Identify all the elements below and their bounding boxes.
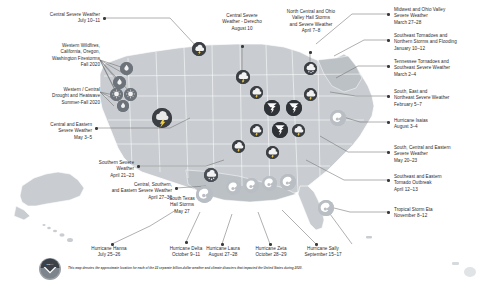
- noaa-logo-text: NOAA: [46, 263, 53, 266]
- noaa-logo: NOAA: [38, 257, 62, 281]
- anchor-dot-4: [95, 127, 98, 130]
- anchor-dot-1: [103, 17, 106, 20]
- anchor-dot-17: [387, 65, 390, 68]
- marker-tornado-2[interactable]: [286, 100, 302, 116]
- event-label-derecho: Central Severe Weather - Derecho August …: [206, 13, 278, 32]
- event-label-hurricane-isaias: Hurricane Isaias August 3–4: [394, 118, 478, 131]
- event-label-hurricane-sally: Hurricane Sally September 15–17: [284, 246, 362, 259]
- event-label-north-central-hail: North Central and Ohio Valley Hail Storm…: [272, 9, 350, 34]
- marker-storm-east-1[interactable]: [250, 86, 263, 99]
- anchor-dot-14: [309, 51, 312, 54]
- marker-hurricane-sally[interactable]: [280, 174, 296, 190]
- disaster-map-page: Central Severe Weather July 10–11 Wester…: [0, 0, 482, 293]
- anchor-dot-19: [387, 121, 390, 124]
- event-label-central-severe-july: Central Severe Weather July 10–11: [8, 12, 100, 25]
- marker-storm-east-2[interactable]: [304, 88, 317, 101]
- marker-hurricane-isaias[interactable]: [330, 110, 346, 126]
- marker-hurricane-zeta[interactable]: [262, 176, 277, 191]
- anchor-dot-22: [387, 211, 390, 214]
- map-caption: This map denotes the approximate locatio…: [68, 266, 368, 270]
- marker-tropical-storm-eta[interactable]: [318, 200, 334, 216]
- puerto-rico-inset: [366, 236, 372, 238]
- marker-tornado-1[interactable]: [264, 100, 280, 116]
- marker-central-storm-large[interactable]: [152, 108, 172, 128]
- marker-hurricane-delta[interactable]: [226, 180, 241, 195]
- marker-storm-east-3[interactable]: [250, 124, 263, 137]
- event-label-southern-severe-april: Southern Severe Weather April 21–23: [52, 160, 134, 179]
- event-label-midwest-ohio: Midwest and Ohio Valley Severe Weather M…: [394, 7, 482, 26]
- anchor-dot-13: [241, 45, 244, 48]
- anchor-dot-18: [387, 95, 390, 98]
- event-label-southeast-tornadoes-jan: Southeast Tornadoes and Northern Storms …: [394, 33, 482, 52]
- event-label-western-wildfires: Western Wildfires, California, Oregon, W…: [6, 43, 100, 68]
- event-label-tennessee-tornadoes: Tennessee Tornadoes and Southeast Severe…: [394, 59, 482, 78]
- marker-storm-east-4[interactable]: [292, 124, 305, 137]
- event-label-south-east-northeast: South, East and Northeast Severe Weather…: [394, 89, 482, 108]
- puerto-rico-inset-2: [452, 262, 459, 265]
- event-label-south-central-eastern: South, Central and Eastern Severe Weathe…: [394, 145, 482, 164]
- marker-tornado-3[interactable]: [272, 122, 288, 138]
- marker-derecho[interactable]: [236, 70, 250, 84]
- anchor-dot-21: [387, 179, 390, 182]
- anchor-dot-6: [175, 187, 178, 190]
- event-label-central-eastern-may: Central and Eastern Severe Weather May 3…: [4, 122, 92, 141]
- marker-storm-east-5[interactable]: [232, 140, 245, 153]
- marker-central-severe-july[interactable]: [192, 42, 206, 56]
- anchor-dot-15: [387, 13, 390, 16]
- marker-hurricane-laura[interactable]: [244, 178, 259, 193]
- event-label-southeast-eastern-tornado: Southeast and Eastern Tornado Outbreak A…: [394, 174, 480, 193]
- marker-hail-south-texas[interactable]: [204, 168, 218, 182]
- anchor-dot-9: [185, 241, 188, 244]
- event-label-tropical-storm-eta: Tropical Storm Eta November 8–12: [394, 207, 478, 220]
- ocean-mark: [464, 267, 476, 277]
- anchor-dot-20: [387, 151, 390, 154]
- event-label-western-drought: Western / Central Drought and Heatwave S…: [4, 87, 100, 106]
- marker-storm-east-6[interactable]: [266, 146, 279, 159]
- event-label-hurricane-hanna: Hurricane Hanna July 25–26: [68, 246, 150, 259]
- anchor-dot-16: [387, 39, 390, 42]
- anchor-dot-5: [137, 165, 140, 168]
- event-label-south-texas-hail: South Texas Hail Storms May 27: [146, 196, 218, 215]
- marker-hail-north-central[interactable]: [304, 62, 317, 75]
- marker-wildfire-1[interactable]: [120, 62, 133, 75]
- marker-drought-3[interactable]: [117, 100, 129, 112]
- hawaii-inset: [42, 224, 73, 242]
